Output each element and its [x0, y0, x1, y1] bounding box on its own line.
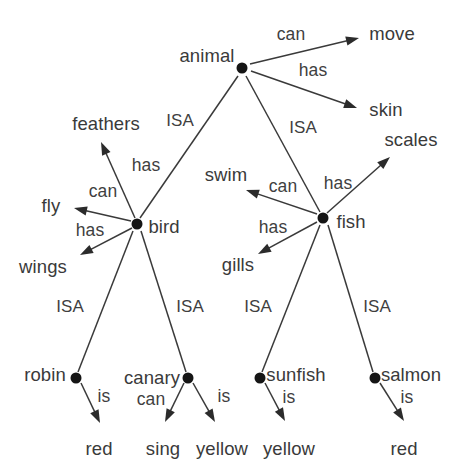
edge-line: [193, 383, 211, 414]
edge-label-robin-is-red: is: [98, 388, 111, 406]
edge-line: [265, 383, 281, 413]
node-label-fish: fish: [336, 213, 365, 232]
arrow-head: [246, 190, 260, 199]
edge-line: [81, 383, 96, 415]
attribute-label-fly: fly: [42, 197, 61, 216]
edge-label-canary-is-yellow: is: [218, 388, 231, 406]
attribute-label-red1: red: [85, 440, 112, 459]
node-dot-salmon[interactable]: [370, 373, 381, 384]
node-label-salmon: salmon: [381, 366, 441, 385]
edge-label-bird-has-feathers: has: [132, 157, 161, 175]
node-dot-bird[interactable]: [132, 219, 143, 230]
edge-layer: [0, 0, 467, 475]
edge-label-fish-isa-sunfish: ISA: [244, 298, 272, 315]
edge-canary-is-yellow: [193, 383, 215, 422]
node-label-canary: canary: [124, 369, 180, 388]
edge-line: [140, 76, 238, 218]
attribute-label-feathers: feathers: [72, 115, 140, 134]
node-label-robin: robin: [24, 366, 66, 385]
edge-label-animal-can-move: can: [277, 26, 306, 44]
edge-label-animal-has-skin: has: [299, 62, 328, 80]
attribute-label-yellow2: yellow: [263, 440, 315, 459]
arrow-head: [258, 244, 272, 254]
edge-label-sunfish-is-yellow: is: [283, 389, 296, 407]
edge-line: [380, 383, 399, 413]
node-dot-robin[interactable]: [71, 373, 82, 384]
edge-label-fish-can-swim: can: [269, 178, 298, 196]
edge-animal-isa-bird: [140, 76, 238, 218]
node-dot-animal[interactable]: [237, 63, 248, 74]
node-label-bird: bird: [148, 218, 179, 237]
arrow-head: [345, 37, 359, 46]
arrow-head: [165, 408, 175, 422]
attribute-label-move: move: [369, 25, 415, 44]
arrow-head: [205, 408, 215, 422]
attribute-label-skin: skin: [369, 101, 402, 120]
edge-label-bird-can-fly: can: [89, 183, 118, 201]
arrow-head: [101, 142, 111, 156]
edge-label-fish-has-gills: has: [259, 219, 288, 237]
arrow-head: [80, 245, 94, 255]
node-label-animal: animal: [179, 47, 234, 66]
node-dot-fish[interactable]: [318, 213, 329, 224]
arrow-head: [275, 407, 285, 421]
edge-bird-has-feathers: [101, 142, 135, 218]
node-label-sunfish: sunfish: [266, 366, 325, 385]
edge-bird-can-fly: [74, 206, 131, 221]
edge-label-fish-isa-salmon: ISA: [363, 298, 391, 315]
edge-label-bird-isa-robin: ISA: [56, 298, 84, 315]
edge-label-animal-isa-fish: ISA: [289, 119, 317, 136]
node-dot-canary[interactable]: [183, 373, 194, 384]
edge-label-animal-isa-bird: ISA: [166, 112, 194, 129]
arrow-head: [393, 408, 404, 421]
edge-canary-can-sing: [165, 383, 184, 422]
attribute-label-red2: red: [390, 440, 417, 459]
edge-label-bird-has-wings: has: [76, 222, 105, 240]
arrow-head: [343, 99, 357, 108]
arrow-head: [74, 206, 88, 215]
attribute-label-yellow1: yellow: [196, 440, 248, 459]
attribute-label-sing: sing: [146, 440, 180, 459]
attribute-label-scales: scales: [384, 131, 437, 150]
arrow-head: [90, 409, 100, 423]
node-dot-sunfish[interactable]: [255, 373, 266, 384]
edge-label-fish-has-scales: has: [324, 175, 353, 193]
edge-label-canary-can-sing: can: [137, 391, 166, 409]
attribute-label-swim: swim: [205, 166, 248, 185]
semantic-network-diagram: canhasISAISAhascanhasISAISAcanhashasISAI…: [0, 0, 467, 475]
edge-label-bird-isa-canary: ISA: [176, 298, 204, 315]
edge-label-salmon-is-red: is: [401, 389, 414, 407]
attribute-label-wings: wings: [19, 258, 67, 277]
attribute-label-gills: gills: [222, 256, 254, 275]
